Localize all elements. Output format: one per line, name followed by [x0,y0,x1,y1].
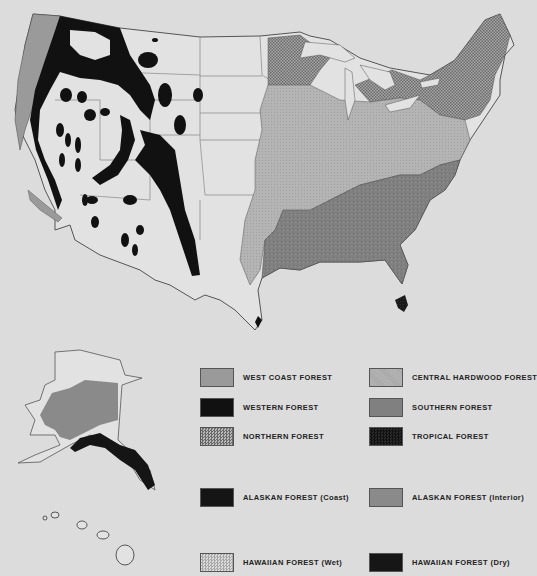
legend-item-southern: SOUTHERN FOREST [369,398,493,417]
swatch-hawaiian-dry [369,553,403,572]
legend-item-west-coast: WEST COAST FOREST [200,368,332,387]
swatch-western [200,398,234,417]
legend-item-western: WESTERN FOREST [200,398,319,417]
hawaii [43,512,134,565]
tropical-forest [395,295,408,312]
swatch-central-hardwood [369,368,403,387]
legend-item-alaskan-coast: ALASKAN FOREST (Coast) [200,488,349,507]
swatch-alaskan-coast [200,488,234,507]
legend-item-tropical: TROPICAL FOREST [369,427,489,446]
swatch-alaskan-interior [369,488,403,507]
swatch-hawaiian-wet [200,553,234,572]
swatch-southern [369,398,403,417]
swatch-tropical [369,427,403,446]
swatch-northern [200,427,234,446]
legend-item-hawaiian-wet: HAWAIIAN FOREST (Wet) [200,553,342,572]
legend-item-hawaiian-dry: HAWAIIAN FOREST (Dry) [369,553,510,572]
legend-item-central-hardwood: CENTRAL HARDWOOD FOREST [369,368,537,387]
legend-item-northern: NORTHERN FOREST [200,427,324,446]
legend-item-alaskan-interior: ALASKAN FOREST (Interior) [369,488,524,507]
alaska [18,350,155,490]
swatch-west-coast [200,368,234,387]
